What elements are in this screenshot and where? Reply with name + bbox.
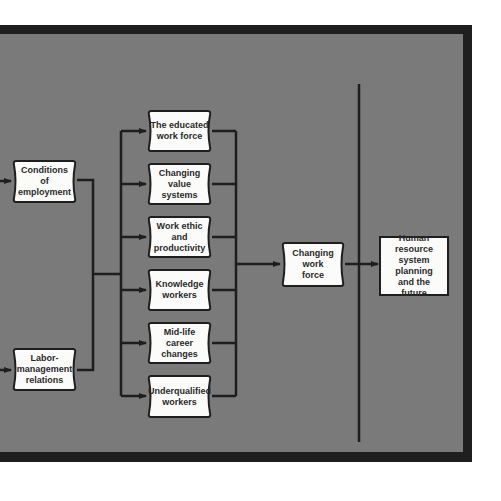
node-label: Mid-life career changes xyxy=(161,327,198,360)
node-changing-work-force: Changing work force xyxy=(281,242,345,287)
node-label: Underqualified workers xyxy=(148,386,211,408)
node-conditions-of-employment: Conditions of employment xyxy=(12,160,77,203)
node-mid-life-career-changes: Mid-life career changes xyxy=(147,322,212,364)
node-underqualified-workers: Underqualified workers xyxy=(147,375,212,418)
node-label: Knowledge workers xyxy=(155,279,203,301)
node-label: Labor- management relations xyxy=(17,353,73,386)
node-label: Human resource system planning and the f… xyxy=(381,233,447,299)
node-label: Work ethic and productivity xyxy=(154,221,206,254)
node-label: Changing work force xyxy=(292,248,334,281)
node-label: The educated work force xyxy=(150,120,208,142)
node-label: Changing value systems xyxy=(159,168,201,201)
node-labor-management-relations: Labor- management relations xyxy=(12,348,77,391)
node-hr-system-planning: Human resource system planning and the f… xyxy=(379,236,449,296)
node-changing-value-systems: Changing value systems xyxy=(147,163,212,205)
node-label: Conditions of employment xyxy=(18,165,71,198)
node-work-ethic-productivity: Work ethic and productivity xyxy=(147,216,212,258)
node-educated-work-force: The educated work force xyxy=(147,110,212,152)
node-knowledge-workers: Knowledge workers xyxy=(147,269,212,311)
